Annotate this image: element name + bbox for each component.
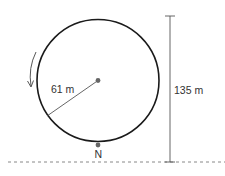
point-n-label: N (95, 148, 103, 160)
ferris-wheel-diagram: 61 m 135 m N (0, 0, 225, 176)
center-dot (96, 78, 101, 83)
radius-label: 61 m (51, 83, 75, 95)
height-label: 135 m (174, 84, 203, 96)
point-n-dot (96, 143, 101, 148)
